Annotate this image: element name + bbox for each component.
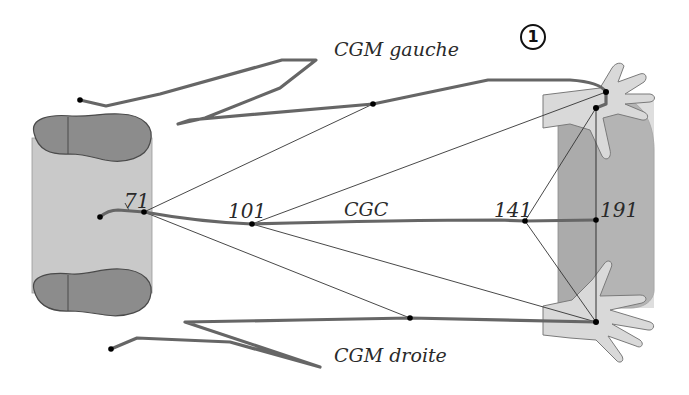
frame-101-label: 101: [228, 199, 266, 223]
cgm-left-trajectory: [80, 60, 606, 124]
cgm-left-label: CGM gauche: [334, 38, 459, 60]
frame-191-label: 191: [600, 198, 638, 222]
right-foot-sole-icon: [33, 269, 151, 316]
cgc-label: CGC: [344, 198, 388, 220]
frame-141-label: 141: [494, 198, 532, 222]
gait-diagram: 1 CGM gauche CGM droite CGC 71 101 141 1…: [0, 0, 689, 395]
cgm-right-label: CGM droite: [334, 344, 447, 366]
feet-panel: [32, 114, 152, 316]
panel-number-badge: 1: [520, 24, 546, 50]
frame-71-label: 71: [124, 189, 149, 213]
